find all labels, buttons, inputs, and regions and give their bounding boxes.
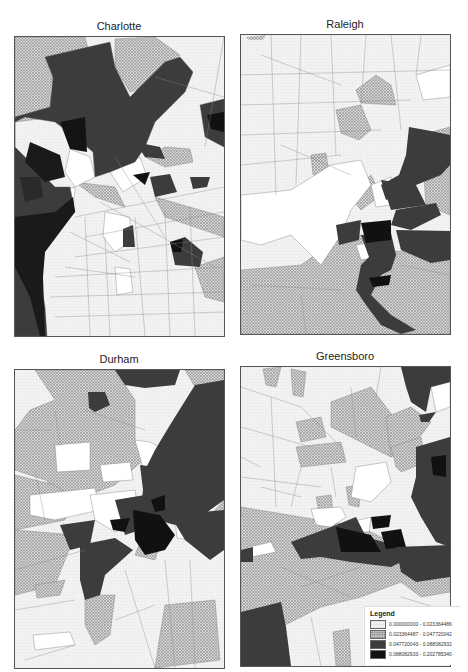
legend-label: 0.000000000 - 0.023364486 (389, 621, 452, 627)
legend-swatch-dark-gray (370, 640, 386, 649)
legend-item: 0.023364487 - 0.047720042 (370, 629, 460, 639)
panel-title-greensboro: Greensboro (240, 350, 450, 362)
legend-label: 0.088082933 - 0.202785340 (389, 651, 452, 657)
legend-label: 0.023364487 - 0.047720042 (389, 631, 452, 637)
panel-title-charlotte: Charlotte (14, 20, 224, 32)
map-raleigh (240, 34, 451, 335)
panel-title-durham: Durham (14, 353, 224, 365)
legend-swatch-light-grid (370, 620, 386, 629)
map-durham (14, 369, 225, 669)
map-charlotte (14, 36, 225, 337)
legend: Legend 0.000000000 - 0.023364486 0.02336… (364, 606, 460, 665)
legend-label: 0.047720043 - 0.088082932 (389, 641, 452, 647)
legend-title: Legend (370, 610, 460, 617)
legend-item: 0.088082933 - 0.202785340 (370, 649, 460, 659)
panel-title-raleigh: Raleigh (240, 18, 450, 30)
legend-item: 0.000000000 - 0.023364486 (370, 619, 460, 629)
legend-swatch-black (370, 650, 386, 659)
legend-item: 0.047720043 - 0.088082932 (370, 639, 460, 649)
legend-swatch-crosshatch (370, 630, 386, 639)
